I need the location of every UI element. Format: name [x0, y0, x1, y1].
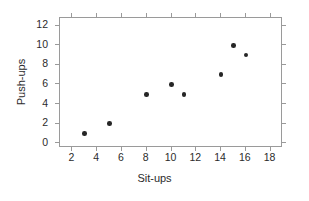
data-point — [244, 53, 249, 58]
y-axis-tick — [55, 103, 59, 104]
data-point — [82, 131, 87, 136]
x-axis-tick-top — [270, 13, 271, 17]
y-axis-tick-right — [282, 25, 286, 26]
x-axis-tick-top — [146, 13, 147, 17]
data-point — [231, 43, 236, 48]
y-axis-tick-right — [282, 123, 286, 124]
scatter-plot: 24681012141618 024681012 Sit-ups Push-up… — [0, 0, 309, 201]
x-axis-tick-top — [220, 13, 221, 17]
y-axis-tick — [55, 44, 59, 45]
x-axis-tick-top — [171, 13, 172, 17]
y-axis-tick — [55, 64, 59, 65]
y-axis-tick-right — [282, 64, 286, 65]
x-axis-tick-label: 18 — [255, 152, 285, 163]
data-point — [144, 92, 149, 97]
data-points-layer — [60, 18, 281, 146]
y-axis-tick — [55, 25, 59, 26]
data-point — [182, 92, 187, 97]
plot-area — [59, 17, 282, 147]
y-axis-tick — [55, 142, 59, 143]
data-point — [169, 82, 174, 87]
x-axis-tick-top — [121, 13, 122, 17]
y-axis-tick-right — [282, 103, 286, 104]
data-point — [107, 121, 112, 126]
y-axis-tick — [55, 123, 59, 124]
y-axis-tick-right — [282, 142, 286, 143]
x-axis-tick-top — [195, 13, 196, 17]
y-axis-title: Push-ups — [14, 17, 28, 147]
x-axis-tick-top — [245, 13, 246, 17]
y-axis-tick-right — [282, 83, 286, 84]
y-axis-tick — [55, 83, 59, 84]
y-axis-tick-right — [282, 44, 286, 45]
x-axis-title: Sit-ups — [0, 172, 309, 184]
x-axis-tick-top — [71, 13, 72, 17]
x-axis-tick-top — [96, 13, 97, 17]
data-point — [219, 72, 224, 77]
